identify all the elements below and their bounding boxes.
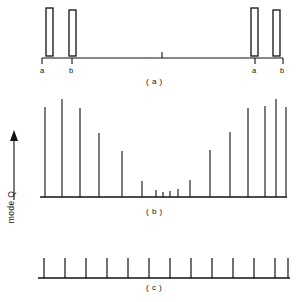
panel-a-bar-left-b: [69, 10, 76, 56]
panel-b-plot: [0, 95, 300, 205]
panel-c-stick-group: [44, 258, 288, 278]
panel-a-caption: ( a ): [146, 77, 163, 86]
panel-b-stick-group: [45, 99, 286, 197]
spectrum-figure: mode Q a b a b ( a ): [0, 0, 300, 302]
panel-a-label-right-a: a: [252, 66, 256, 75]
panel-b-caption: ( b ): [146, 207, 163, 216]
panel-a-bar-right-a: [251, 8, 258, 56]
panel-a-bar-right-b: [273, 10, 280, 56]
panel-c-plot: [0, 250, 300, 300]
panel-a-label-left-b: b: [69, 66, 73, 75]
panel-a-label-left-a: a: [40, 66, 44, 75]
panel-c-caption: ( c ): [146, 283, 162, 292]
panel-a-label-right-b: b: [280, 66, 284, 75]
panel-a-bar-left-a: [46, 8, 53, 56]
